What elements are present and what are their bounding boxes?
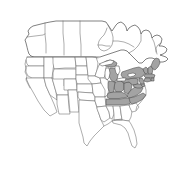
state-colorado xyxy=(64,79,77,90)
lake-michigan xyxy=(105,68,110,80)
state-wyoming xyxy=(53,69,76,79)
state-idaho xyxy=(44,57,54,78)
state-arizona xyxy=(57,95,70,114)
state-arkansas xyxy=(95,97,106,107)
state-north-dakota xyxy=(75,57,87,66)
state-kansas xyxy=(77,84,93,93)
canada-outline xyxy=(25,21,168,63)
state-new-mexico xyxy=(68,90,79,112)
state-oklahoma xyxy=(78,92,95,101)
state-ohio xyxy=(114,81,124,92)
state-rhode-island xyxy=(151,78,154,81)
map-figure: Outline map of the United States and sou… xyxy=(0,0,191,169)
state-south-dakota xyxy=(76,66,88,75)
state-tennessee xyxy=(106,98,131,105)
state-kentucky xyxy=(107,92,128,99)
lake-erie xyxy=(117,78,126,81)
state-massachusetts xyxy=(144,74,155,78)
state-montana xyxy=(53,57,76,69)
state-indiana xyxy=(108,81,115,93)
state-florida xyxy=(112,120,137,148)
state-oregon xyxy=(26,66,44,78)
state-maine xyxy=(151,58,160,70)
state-washington xyxy=(26,57,44,66)
state-connecticut xyxy=(144,78,151,82)
canada-landmass xyxy=(25,21,168,63)
north-america-map xyxy=(0,0,191,169)
shaded-eastern-states xyxy=(103,58,160,105)
state-new-jersey xyxy=(139,78,144,84)
